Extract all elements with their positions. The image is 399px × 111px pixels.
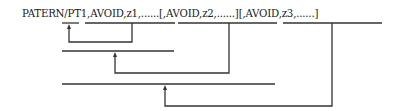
connector-z3 <box>165 23 332 106</box>
nesting-diagram <box>0 0 399 111</box>
arrow-up-icon <box>113 52 117 57</box>
connector-z1 <box>69 23 132 42</box>
arrow-up-icon <box>67 24 71 29</box>
arrow-up-icon <box>163 85 167 90</box>
